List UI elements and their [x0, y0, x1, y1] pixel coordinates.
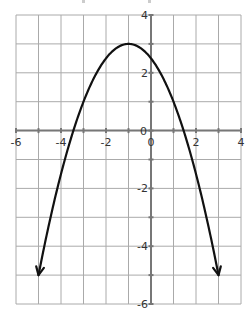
grid-lines	[16, 15, 241, 304]
x-tick-label: -6	[11, 136, 22, 149]
y-tick-label: -6	[137, 298, 148, 311]
x-axis-tick-labels: -6-4-2024	[11, 136, 245, 149]
y-tick-label: -2	[137, 182, 148, 195]
parabola-graph: -6-4-2024 420-2-4-6	[0, 0, 252, 316]
x-tick-label: 2	[193, 136, 200, 149]
x-tick-label: 4	[238, 136, 245, 149]
x-tick-label: -4	[56, 136, 67, 149]
y-tick-label: 4	[141, 9, 148, 22]
y-tick-label: 2	[141, 67, 148, 80]
cropped-text-fragments	[82, 0, 151, 3]
y-tick-label: -4	[137, 240, 148, 253]
x-tick-label: 0	[148, 136, 155, 149]
x-tick-label: -2	[101, 136, 112, 149]
y-tick-label: 0	[140, 125, 147, 138]
